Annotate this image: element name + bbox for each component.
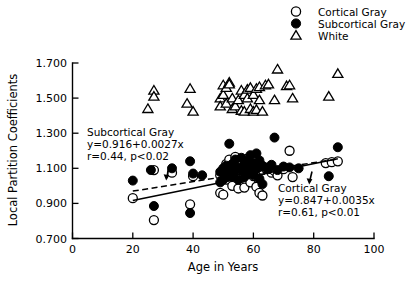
y-tick-label: 0.900 — [36, 197, 68, 210]
data-point-white — [269, 95, 279, 104]
x-tick-label: 60 — [246, 243, 260, 256]
data-point-cortical-gray — [128, 194, 137, 203]
data-point-white — [182, 99, 192, 108]
x-tick-label: 0 — [69, 243, 76, 256]
data-point-subcortical-gray — [258, 180, 267, 189]
annotation-cortical-line2: y=0.847+0.0035x — [278, 194, 375, 206]
legend-marker-cortical-gray-icon — [291, 7, 300, 16]
legend-label-white: White — [318, 30, 349, 42]
data-point-white — [288, 93, 298, 102]
chart-svg: Cortical Gray Subcortical Gray White — [0, 0, 419, 284]
y-tick-label: 1.300 — [36, 127, 68, 140]
annotation-cortical-line3: r=0.61, p<0.01 — [278, 206, 360, 218]
data-point-subcortical-gray — [189, 169, 198, 178]
data-point-subcortical-gray — [198, 171, 207, 180]
data-point-cortical-gray — [333, 157, 342, 166]
legend-label-subcortical-gray: Subcortical Gray — [318, 18, 405, 30]
data-point-cortical-gray — [149, 216, 158, 225]
x-axis-ticks — [73, 233, 375, 239]
y-axis-title: Local Partition Coefficients — [6, 74, 20, 227]
x-tick-label: 100 — [364, 243, 385, 256]
y-tick-label: 1.500 — [36, 92, 68, 105]
y-tick-label: 1.100 — [36, 162, 68, 175]
data-point-subcortical-gray — [146, 166, 155, 175]
annotation-subcortical-line1: Subcortical Gray — [87, 126, 174, 138]
x-tick-label: 40 — [186, 243, 200, 256]
legend-label-cortical-gray: Cortical Gray — [318, 6, 387, 18]
data-point-white — [272, 64, 282, 73]
x-axis-tick-labels: 0 20 40 60 80 100 — [69, 243, 385, 256]
data-point-white — [324, 92, 334, 101]
y-axis-tick-labels: 1.700 1.500 1.300 1.100 0.900 0.700 — [36, 57, 68, 246]
data-point-cortical-gray — [186, 200, 195, 209]
data-point-subcortical-gray — [128, 176, 137, 185]
data-point-subcortical-gray — [270, 133, 279, 142]
y-tick-label: 1.700 — [36, 57, 68, 70]
legend: Cortical Gray Subcortical Gray White — [291, 6, 405, 42]
data-point-subcortical-gray — [225, 139, 234, 148]
data-point-subcortical-gray — [186, 209, 195, 218]
subcortical-pointer-head-icon — [164, 174, 170, 180]
data-point-white — [333, 69, 343, 78]
data-point-white — [185, 84, 195, 93]
data-point-cortical-gray — [258, 191, 267, 200]
annotation-subcortical-gray: Subcortical Gray y=0.916+0.0027x r=0.44,… — [87, 126, 184, 162]
annotation-cortical-gray: Cortical Gray y=0.847+0.0035x r=0.61, p<… — [278, 182, 375, 218]
annotation-subcortical-line3: r=0.44, p<0.02 — [87, 150, 169, 162]
data-point-cortical-gray — [288, 173, 297, 182]
y-tick-label: 0.700 — [36, 233, 68, 246]
data-point-white — [143, 104, 153, 113]
scatter-plot-figure: Cortical Gray Subcortical Gray White — [0, 0, 419, 284]
legend-marker-subcortical-gray-icon — [291, 19, 300, 28]
data-point-subcortical-gray — [324, 172, 333, 181]
data-point-cortical-gray — [219, 190, 228, 199]
y-axis-ticks — [73, 63, 79, 239]
data-point-subcortical-gray — [186, 157, 195, 166]
data-point-subcortical-gray — [333, 143, 342, 152]
annotation-subcortical-line2: y=0.916+0.0027x — [87, 138, 184, 150]
data-point-cortical-gray — [285, 146, 294, 155]
annotation-cortical-line1: Cortical Gray — [278, 182, 347, 194]
x-axis-title: Age in Years — [188, 260, 258, 274]
data-point-subcortical-gray — [149, 202, 158, 211]
legend-marker-white-icon — [291, 31, 301, 40]
x-tick-label: 20 — [126, 243, 140, 256]
x-tick-label: 80 — [307, 243, 321, 256]
